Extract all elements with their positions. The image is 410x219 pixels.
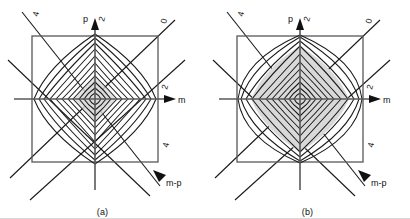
- label-m-a: m: [178, 95, 186, 105]
- tick-label-b-4right: 4: [365, 141, 376, 148]
- tick-label-a-4right: 4: [160, 141, 171, 148]
- label-m-b: m: [383, 95, 391, 105]
- tick-label-a-2top: 2: [96, 15, 107, 22]
- panel-b-plot: p m m-p 4 2 0 2 4: [205, 0, 410, 219]
- tick-label-b-2top: 2: [301, 15, 312, 22]
- tick-label-a-0: 0: [158, 17, 169, 24]
- panel-a-caption: (a): [0, 207, 205, 217]
- figure-container: p m m-p 4 2 0 2 4 (a): [0, 0, 410, 219]
- contour-panel-a: p m m-p 4 2 0 2 4 (a): [0, 0, 205, 219]
- label-mp-a: m-p: [166, 178, 182, 188]
- tick-label-b-2right: 2: [364, 83, 375, 90]
- tick-label-b-0: 0: [363, 17, 374, 24]
- panel-a-plot: p m m-p 4 2 0 2 4: [0, 0, 205, 219]
- panel-b-caption: (b): [205, 207, 410, 217]
- label-p-b: p: [288, 14, 293, 24]
- tick-label-b-4left: 4: [235, 10, 246, 17]
- label-mp-b: m-p: [371, 178, 387, 188]
- figure-bottom-rule: [0, 218, 410, 219]
- contour-panel-b: p m m-p 4 2 0 2 4 (b): [205, 0, 410, 219]
- tick-label-a-2right: 2: [159, 83, 170, 90]
- tick-label-a-4left: 4: [30, 10, 41, 17]
- arrow-m-b: [369, 95, 381, 103]
- arrow-m-a: [164, 95, 176, 103]
- label-p-a: p: [83, 14, 88, 24]
